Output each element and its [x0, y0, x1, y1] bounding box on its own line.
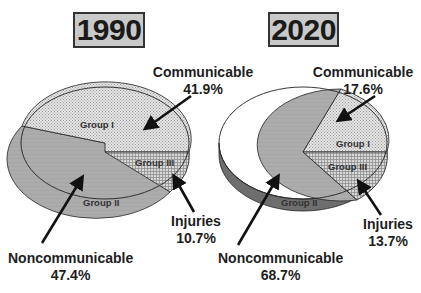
callout-1990-communicable: Communicable 41.9%	[148, 64, 258, 98]
callout-value: 47.4%	[8, 267, 133, 284]
callout-name: Communicable	[148, 64, 258, 81]
callout-name: Noncommunicable	[218, 250, 343, 267]
callout-2020-injuries: Injuries 13.7%	[358, 216, 418, 250]
callout-name: Injuries	[358, 216, 418, 233]
slice-label-1990-group2: Group II	[83, 197, 119, 208]
slice-label-2020-group2: Group II	[281, 197, 317, 208]
callout-value: 10.7%	[166, 230, 226, 247]
callout-2020-communicable: Communicable 17.6%	[308, 64, 418, 98]
slice-label-2020-group3: Group III	[328, 161, 367, 172]
callout-name: Injuries	[166, 213, 226, 230]
slice-label-1990-group1: Group I	[80, 119, 114, 130]
slice-label-1990-group3: Group III	[135, 157, 174, 168]
callout-1990-noncommunicable: Noncommunicable 47.4%	[8, 250, 133, 284]
callout-value: 41.9%	[148, 81, 258, 98]
arrow-1990-injuries	[176, 180, 194, 212]
chart-figure: 1990 2020	[0, 0, 421, 293]
callout-name: Noncommunicable	[8, 250, 133, 267]
callout-1990-injuries: Injuries 10.7%	[166, 213, 226, 247]
callout-value: 68.7%	[218, 267, 343, 284]
callout-value: 17.6%	[308, 81, 418, 98]
callout-name: Communicable	[308, 64, 418, 81]
slice-label-2020-group1: Group I	[336, 138, 370, 149]
callout-2020-noncommunicable: Noncommunicable 68.7%	[218, 250, 343, 284]
callout-value: 13.7%	[358, 233, 418, 250]
